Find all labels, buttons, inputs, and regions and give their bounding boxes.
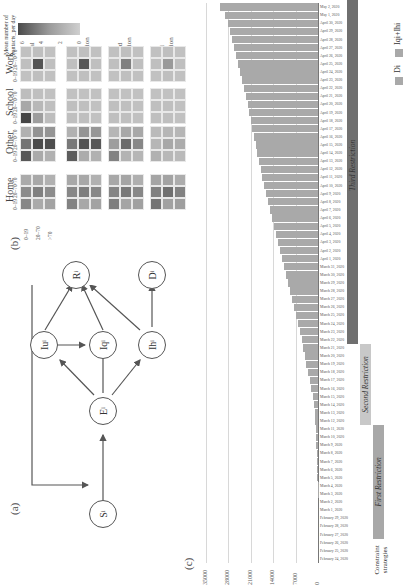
heatmap-cell — [20, 112, 32, 124]
bar — [240, 68, 318, 75]
compartment-diagram — [0, 285, 190, 585]
heatmap-cell — [66, 174, 78, 186]
bar — [251, 117, 318, 124]
x-axis-date-label: March 19, 2020 — [320, 362, 344, 366]
bar — [244, 85, 318, 92]
heatmap-cell — [132, 46, 144, 58]
heatmap-cell — [108, 88, 120, 100]
heatmap-cell — [66, 112, 78, 124]
heatmap-cell — [162, 186, 174, 198]
heatmap-cell — [162, 174, 174, 186]
heatmap-cell — [90, 46, 102, 58]
bar — [284, 263, 318, 270]
x-axis-date-label: April 22, 2020 — [320, 86, 342, 90]
heatmap-cell — [150, 150, 162, 162]
bar — [302, 336, 318, 343]
x-axis-date-label: February 25, 2020 — [320, 549, 348, 553]
heatmap-cell — [20, 174, 32, 186]
x-axis-date-label: April 25, 2020 — [320, 62, 342, 66]
heatmap-cell — [108, 198, 120, 210]
bar — [306, 361, 318, 368]
legend-swatch-iq-ih — [395, 49, 403, 57]
heatmap-cell — [66, 70, 78, 82]
bar — [274, 223, 318, 230]
heatmap-cell — [174, 100, 186, 112]
x-axis-date-label: March 21, 2020 — [320, 346, 344, 350]
heatmap-cell — [174, 174, 186, 186]
node-Iu: Iui — [30, 331, 58, 359]
bar — [310, 377, 318, 384]
node-R: Ri — [62, 261, 90, 289]
heatmap-cell — [66, 138, 78, 150]
heatmap-cell — [132, 198, 144, 210]
heatmap-cell — [90, 198, 102, 210]
heatmap-cell — [32, 70, 44, 82]
heatmap-cell — [150, 70, 162, 82]
bar — [242, 76, 318, 83]
heatmap-cell — [78, 58, 90, 70]
heatmap-cell — [90, 70, 102, 82]
bar — [317, 466, 318, 473]
heatmap-cell — [90, 150, 102, 162]
heatmap-cell — [150, 174, 162, 186]
x-axis-date-label: April 7, 2020 — [320, 208, 340, 212]
x-axis-date-label: March 7, 2020 — [320, 460, 342, 464]
bar — [298, 320, 318, 327]
heatmap-cell — [150, 126, 162, 138]
node-label: S — [98, 512, 109, 518]
x-axis-date-label: April 12, 2020 — [320, 167, 342, 171]
x-axis-date-label: April 8, 2020 — [320, 200, 340, 204]
node-label: Iu — [39, 342, 50, 350]
heatmap-cell — [162, 198, 174, 210]
bar — [254, 133, 318, 140]
heatmap-cell — [32, 138, 44, 150]
heatmap-cell — [150, 46, 162, 58]
heatmap-cell — [66, 150, 78, 162]
heatmap-cell — [120, 138, 132, 150]
bar — [282, 255, 318, 262]
heatmap-cell — [132, 112, 144, 124]
node-sub: i — [41, 340, 47, 342]
heatmap-cell — [132, 138, 144, 150]
heatmap-cell — [78, 88, 90, 100]
gridline — [228, 3, 229, 563]
heatmap-cell — [150, 88, 162, 100]
node-label: Iq — [98, 342, 109, 350]
heatmap-cell — [120, 126, 132, 138]
bar — [314, 401, 318, 408]
heatmap-cell — [174, 88, 186, 100]
age-group-tick: 20–70 — [12, 136, 18, 150]
heatmap-cell — [174, 138, 186, 150]
node-sub: i — [100, 407, 106, 409]
node-label: D — [147, 272, 158, 279]
age-group-tick: 0–19 — [23, 229, 29, 240]
heatmap-cell — [78, 138, 90, 150]
bar — [313, 393, 318, 400]
x-axis-date-label: March 8, 2020 — [320, 451, 342, 455]
heatmap-cell — [174, 112, 186, 124]
strategies-axis-label-1: Constraint — [373, 535, 381, 585]
heatmap-cell — [32, 112, 44, 124]
heatmap-cell — [150, 100, 162, 112]
figure: (a) Si Ei Iui Iqi Ihi Ri Di (b) Mean num… — [0, 0, 407, 585]
bar — [234, 44, 318, 51]
heatmap-cell — [150, 198, 162, 210]
heatmap-cell — [174, 70, 186, 82]
x-axis-date-label: April 11, 2020 — [320, 176, 342, 180]
heatmap-cell — [120, 174, 132, 186]
heatmap-cell — [150, 186, 162, 198]
age-group-tick: 0–19 — [12, 71, 18, 82]
heatmap-cell — [20, 88, 32, 100]
x-axis-date-label: May 2, 2020 — [320, 5, 339, 9]
x-axis-date-label: March 10, 2020 — [320, 435, 344, 439]
bar — [276, 231, 318, 238]
x-axis-date-label: February 29, 2020 — [320, 516, 348, 520]
heatmap-cell — [108, 150, 120, 162]
x-axis-date-label: April 26, 2020 — [320, 54, 342, 58]
heatmap-cell — [90, 58, 102, 70]
heatmap-cell — [132, 100, 144, 112]
heatmap-cell — [20, 138, 32, 150]
age-group-tick: 20–70 — [35, 226, 41, 240]
heatmap-cell — [78, 186, 90, 198]
x-axis-date-label: February 28, 2020 — [320, 524, 348, 528]
